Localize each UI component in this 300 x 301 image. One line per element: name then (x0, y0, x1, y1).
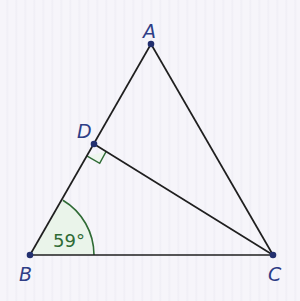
label-d: D (77, 120, 92, 142)
point-b (27, 252, 34, 259)
point-d (91, 141, 98, 148)
label-b: B (19, 263, 32, 285)
point-c (270, 252, 277, 259)
segment-dc (94, 144, 273, 255)
right-angle-mark (87, 151, 106, 163)
triangle-diagram: A D B C 59° (0, 0, 300, 301)
segment-ab (30, 44, 151, 255)
label-c: C (268, 263, 282, 285)
angle-b-label: 59° (53, 230, 85, 251)
diagram-canvas: A D B C 59° (0, 0, 300, 301)
label-a: A (141, 20, 156, 42)
segment-ac (151, 44, 273, 255)
